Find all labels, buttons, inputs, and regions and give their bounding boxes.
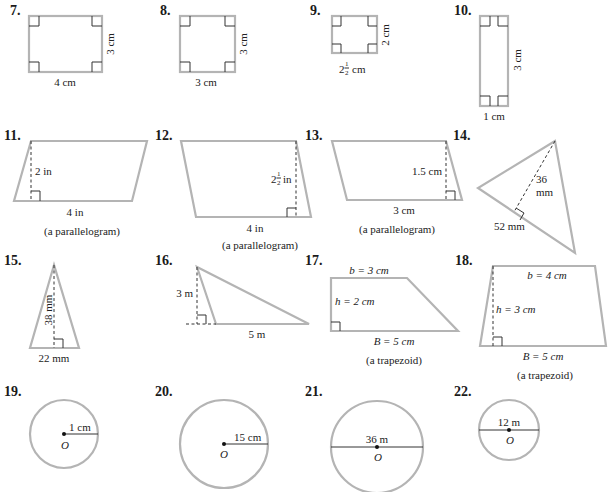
problem-14: 14. 36 mm 52 mm [453, 128, 575, 253]
width-label: 4 cm [54, 76, 76, 88]
problem-12: 12. 2 1 2 in 4 in (a parallelogram) [155, 128, 311, 252]
height-label: 2 1 2 in [271, 170, 292, 187]
triangle-shape [478, 141, 575, 253]
problem-number: 18. [455, 253, 473, 268]
base-label: 4 in [67, 206, 84, 218]
problem-number: 8. [160, 3, 171, 18]
diameter-label: 12 m [498, 416, 521, 428]
height-label: 3 cm [237, 33, 249, 55]
rectangle-shape [29, 16, 102, 72]
height-label: 38 mm [42, 294, 54, 325]
center-point [375, 445, 379, 449]
problem-13: 13. 1.5 cm 3 cm (a parallelogram) [305, 128, 462, 236]
height-label: 1.5 cm [412, 165, 442, 177]
problem-number: 13. [305, 128, 323, 143]
base-label: 52 mm [494, 220, 525, 232]
center-label: O [506, 434, 514, 446]
problem-22: 22. 12 m O [454, 384, 539, 460]
bottom-base-label: B = 5 cm [523, 350, 564, 362]
rectangle-shape [332, 16, 377, 53]
svg-text:2: 2 [271, 173, 277, 185]
svg-text:cm: cm [352, 63, 366, 75]
problem-number: 22. [454, 384, 472, 399]
svg-text:1: 1 [345, 60, 349, 68]
right-angle-icon [493, 337, 502, 346]
right-angle-icon [332, 16, 377, 53]
right-angle-icon [29, 16, 102, 72]
height-label: 3 m [176, 287, 193, 299]
problem-21: 21. 36 m O [305, 384, 423, 492]
svg-text:2: 2 [345, 69, 349, 77]
problem-number: 14. [453, 128, 471, 143]
right-angle-icon [480, 16, 508, 106]
height-label-line1: 36 [536, 173, 548, 185]
problem-8: 8. 3 cm 3 cm [160, 3, 249, 88]
right-angle-icon [54, 339, 63, 348]
problem-10: 10. 1 cm 3 cm [454, 3, 523, 122]
problem-number: 21. [305, 384, 323, 399]
height-label: 3 cm [511, 49, 523, 71]
problem-number: 10. [454, 3, 472, 18]
problem-number: 19. [4, 384, 22, 399]
right-angle-icon [197, 315, 206, 324]
problem-number: 12. [155, 128, 173, 143]
radius-label: 1 cm [69, 421, 91, 433]
problem-15: 15. 38 mm 22 mm [4, 253, 79, 364]
parallelogram-shape [14, 141, 147, 201]
rectangle-shape [480, 16, 508, 106]
problem-16: 16. 3 m 5 m [155, 253, 309, 340]
problem-number: 7. [10, 3, 21, 18]
problem-number: 11. [4, 128, 21, 143]
center-point [222, 442, 226, 446]
problem-11: 11. 2 in 4 in (a parallelogram) [4, 128, 147, 238]
problem-7: 7. 4 cm 3 cm [10, 3, 116, 88]
center-label: O [374, 451, 382, 463]
shape-caption: (a trapezoid) [366, 354, 422, 367]
top-base-label: b = 4 cm [527, 269, 567, 281]
right-angle-icon [180, 16, 235, 72]
parallelogram-shape [332, 141, 462, 200]
problem-number: 9. [310, 3, 321, 18]
right-angle-icon [287, 208, 296, 217]
shape-caption: (a parallelogram) [359, 223, 435, 236]
problem-number: 20. [155, 384, 173, 399]
svg-text:2: 2 [277, 179, 281, 187]
base-label: 22 mm [39, 352, 70, 364]
triangle-shape [197, 267, 309, 324]
problem-18: 18. b = 4 cm h = 3 cm B = 5 cm (a trapez… [455, 253, 606, 382]
base-label: 5 m [249, 328, 266, 340]
radius-label: 15 cm [234, 431, 262, 443]
problem-19: 19. 1 cm O [4, 384, 98, 468]
base-label: 3 cm [393, 204, 415, 216]
right-angle-icon [446, 191, 455, 200]
height-label: h = 2 cm [335, 295, 375, 307]
square-shape [180, 16, 235, 72]
svg-text:1: 1 [277, 170, 281, 178]
base-label: 4 in [247, 222, 264, 234]
svg-text:2: 2 [339, 63, 345, 75]
problem-number: 15. [4, 253, 22, 268]
center-point [62, 432, 66, 436]
svg-text:in: in [283, 173, 292, 185]
center-point [507, 428, 511, 432]
top-base-label: b = 3 cm [349, 264, 389, 276]
right-angle-icon [331, 322, 340, 331]
problem-number: 17. [305, 253, 323, 268]
problem-20: 20. 15 cm O [155, 384, 268, 488]
width-label: 1 cm [483, 110, 505, 122]
right-angle-icon [31, 191, 40, 201]
shape-caption: (a parallelogram) [44, 225, 120, 238]
height-label-line2: mm [536, 186, 554, 198]
bottom-base-label: B = 5 cm [374, 335, 415, 347]
height-label: 2 cm [379, 24, 391, 46]
width-label: 3 cm [195, 76, 217, 88]
center-label: O [61, 439, 69, 451]
height-line [514, 141, 555, 212]
problem-17: 17. b = 3 cm h = 2 cm B = 5 cm (a trapez… [305, 253, 458, 367]
problem-9: 9. 2 1 2 cm 2 cm [310, 3, 391, 77]
shape-caption: (a trapezoid) [517, 369, 573, 382]
diameter-label: 36 m [366, 433, 389, 445]
width-label: 2 1 2 cm [339, 60, 366, 77]
height-label: 2 in [35, 165, 52, 177]
problem-number: 16. [155, 253, 173, 268]
